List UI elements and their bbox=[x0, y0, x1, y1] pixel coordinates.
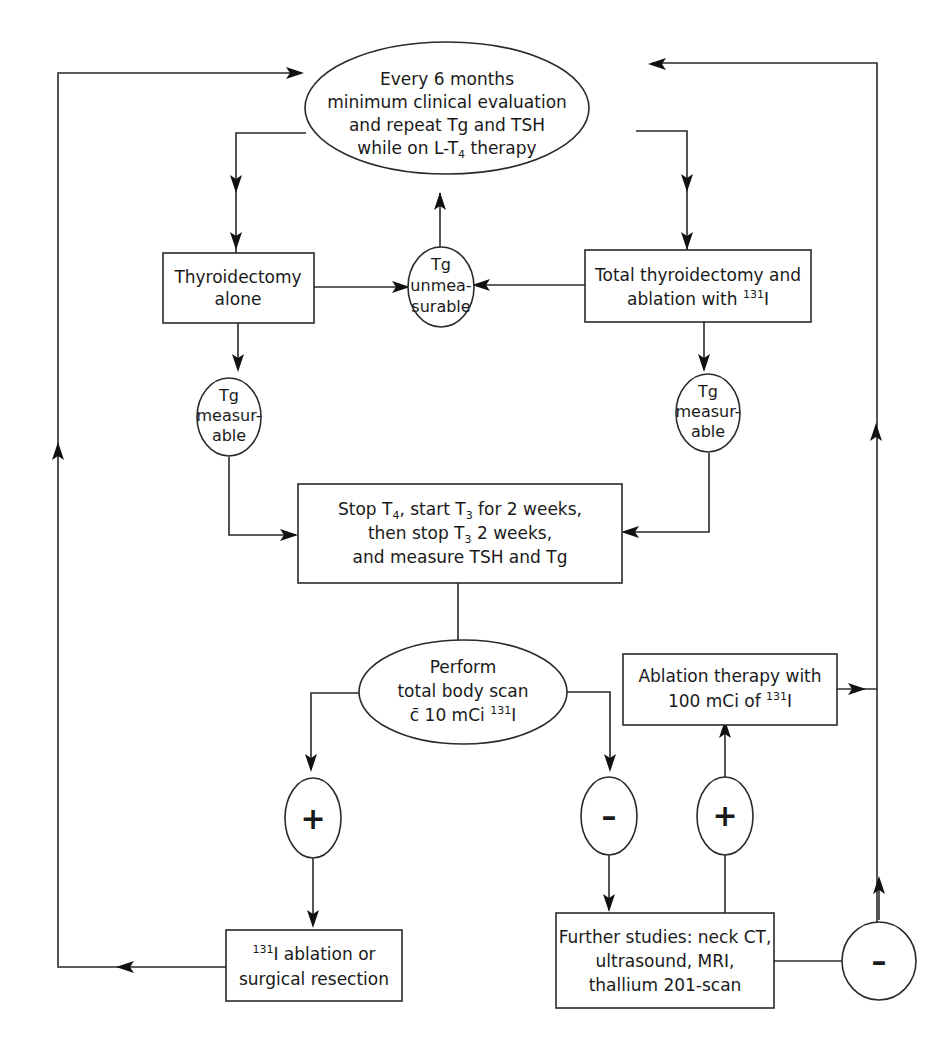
edge-scan-to-positive bbox=[311, 693, 359, 768]
edge-followup-to-total bbox=[636, 131, 687, 258]
stop-line-2: then stop T3 2 weeks, bbox=[368, 523, 552, 546]
scan-line-2: total body scan bbox=[397, 681, 528, 701]
node-thyroidectomy-alone: Thyroidectomy alone bbox=[163, 253, 314, 323]
stop-line-3: and measure TSH and Tg bbox=[353, 547, 568, 567]
node-body-scan: Perform total body scan c̄ 10 mCi 131I bbox=[359, 640, 567, 744]
unmeasurable-line-2: unmea- bbox=[410, 276, 471, 295]
edge-measurable-left-to-stop bbox=[229, 457, 296, 535]
total-line-1: Total thyroidectomy and bbox=[594, 265, 801, 285]
node-scan-positive: + bbox=[285, 778, 341, 858]
node-total-thyroidectomy: Total thyroidectomy and ablation with 13… bbox=[585, 250, 811, 322]
measurable-right-line-2: measur- bbox=[675, 402, 740, 421]
followup-line-3: and repeat Tg and TSH bbox=[349, 115, 545, 135]
measurable-left-line-1: Tg bbox=[218, 386, 239, 405]
node-tg-unmeasurable: Tg unmea- surable bbox=[408, 247, 474, 327]
node-ablation-therapy: Ablation therapy with 100 mCi of 131I bbox=[623, 654, 837, 725]
node-further-positive: + bbox=[697, 777, 753, 855]
edge-followup-to-thyroidectomy bbox=[236, 133, 306, 258]
followup-line-2: minimum clinical evaluation bbox=[327, 92, 567, 112]
measurable-right-line-1: Tg bbox=[697, 382, 718, 401]
flowchart: Every 6 months minimum clinical evaluati… bbox=[0, 0, 952, 1044]
node-scan-negative: – bbox=[581, 777, 637, 855]
node-further-studies: Further studies: neck CT, ultrasound, MR… bbox=[556, 913, 774, 1008]
thyroidectomy-line-2: alone bbox=[215, 289, 262, 309]
followup-line-1: Every 6 months bbox=[380, 69, 514, 89]
further-line-3: thallium 201-scan bbox=[589, 975, 742, 995]
node-ablation-or-resection: 131I ablation or surgical resection bbox=[226, 930, 402, 1001]
node-followup: Every 6 months minimum clinical evaluati… bbox=[305, 42, 589, 174]
arrowhead-right-loop-entry bbox=[648, 58, 666, 70]
node-tg-measurable-left: Tg measur- able bbox=[196, 378, 261, 456]
plus-icon: + bbox=[712, 798, 737, 833]
arrowhead-right-loop-up-upper bbox=[870, 423, 882, 441]
measurable-left-line-3: able bbox=[212, 426, 246, 445]
edge-negative-to-followup bbox=[652, 63, 877, 925]
followup-line-4: while on L-T4 therapy bbox=[357, 138, 536, 161]
unmeasurable-line-1: Tg bbox=[430, 255, 451, 274]
further-line-1: Further studies: neck CT, bbox=[559, 927, 772, 947]
node-stop-t4: Stop T4, start T3 for 2 weeks, then stop… bbox=[298, 484, 622, 583]
minus-icon: – bbox=[602, 798, 617, 833]
minus-icon: – bbox=[872, 943, 887, 978]
measurable-left-line-2: measur- bbox=[196, 406, 261, 425]
measurable-right-line-3: able bbox=[691, 422, 725, 441]
thyroidectomy-line-1: Thyroidectomy bbox=[173, 267, 301, 287]
stop-line-1: Stop T4, start T3 for 2 weeks, bbox=[338, 499, 582, 522]
edge-scan-to-negative bbox=[567, 692, 610, 768]
node-further-negative: – bbox=[842, 922, 916, 1000]
resection-line-2: surgical resection bbox=[239, 969, 389, 989]
scan-line-1: Perform bbox=[430, 657, 497, 677]
unmeasurable-line-3: surable bbox=[411, 297, 470, 316]
ablation-line-1: Ablation therapy with bbox=[638, 666, 821, 686]
plus-icon: + bbox=[300, 801, 325, 836]
node-tg-measurable-right: Tg measur- able bbox=[675, 374, 740, 452]
edge-measurable-right-to-stop bbox=[624, 453, 709, 532]
further-line-2: ultrasound, MRI, bbox=[596, 951, 735, 971]
